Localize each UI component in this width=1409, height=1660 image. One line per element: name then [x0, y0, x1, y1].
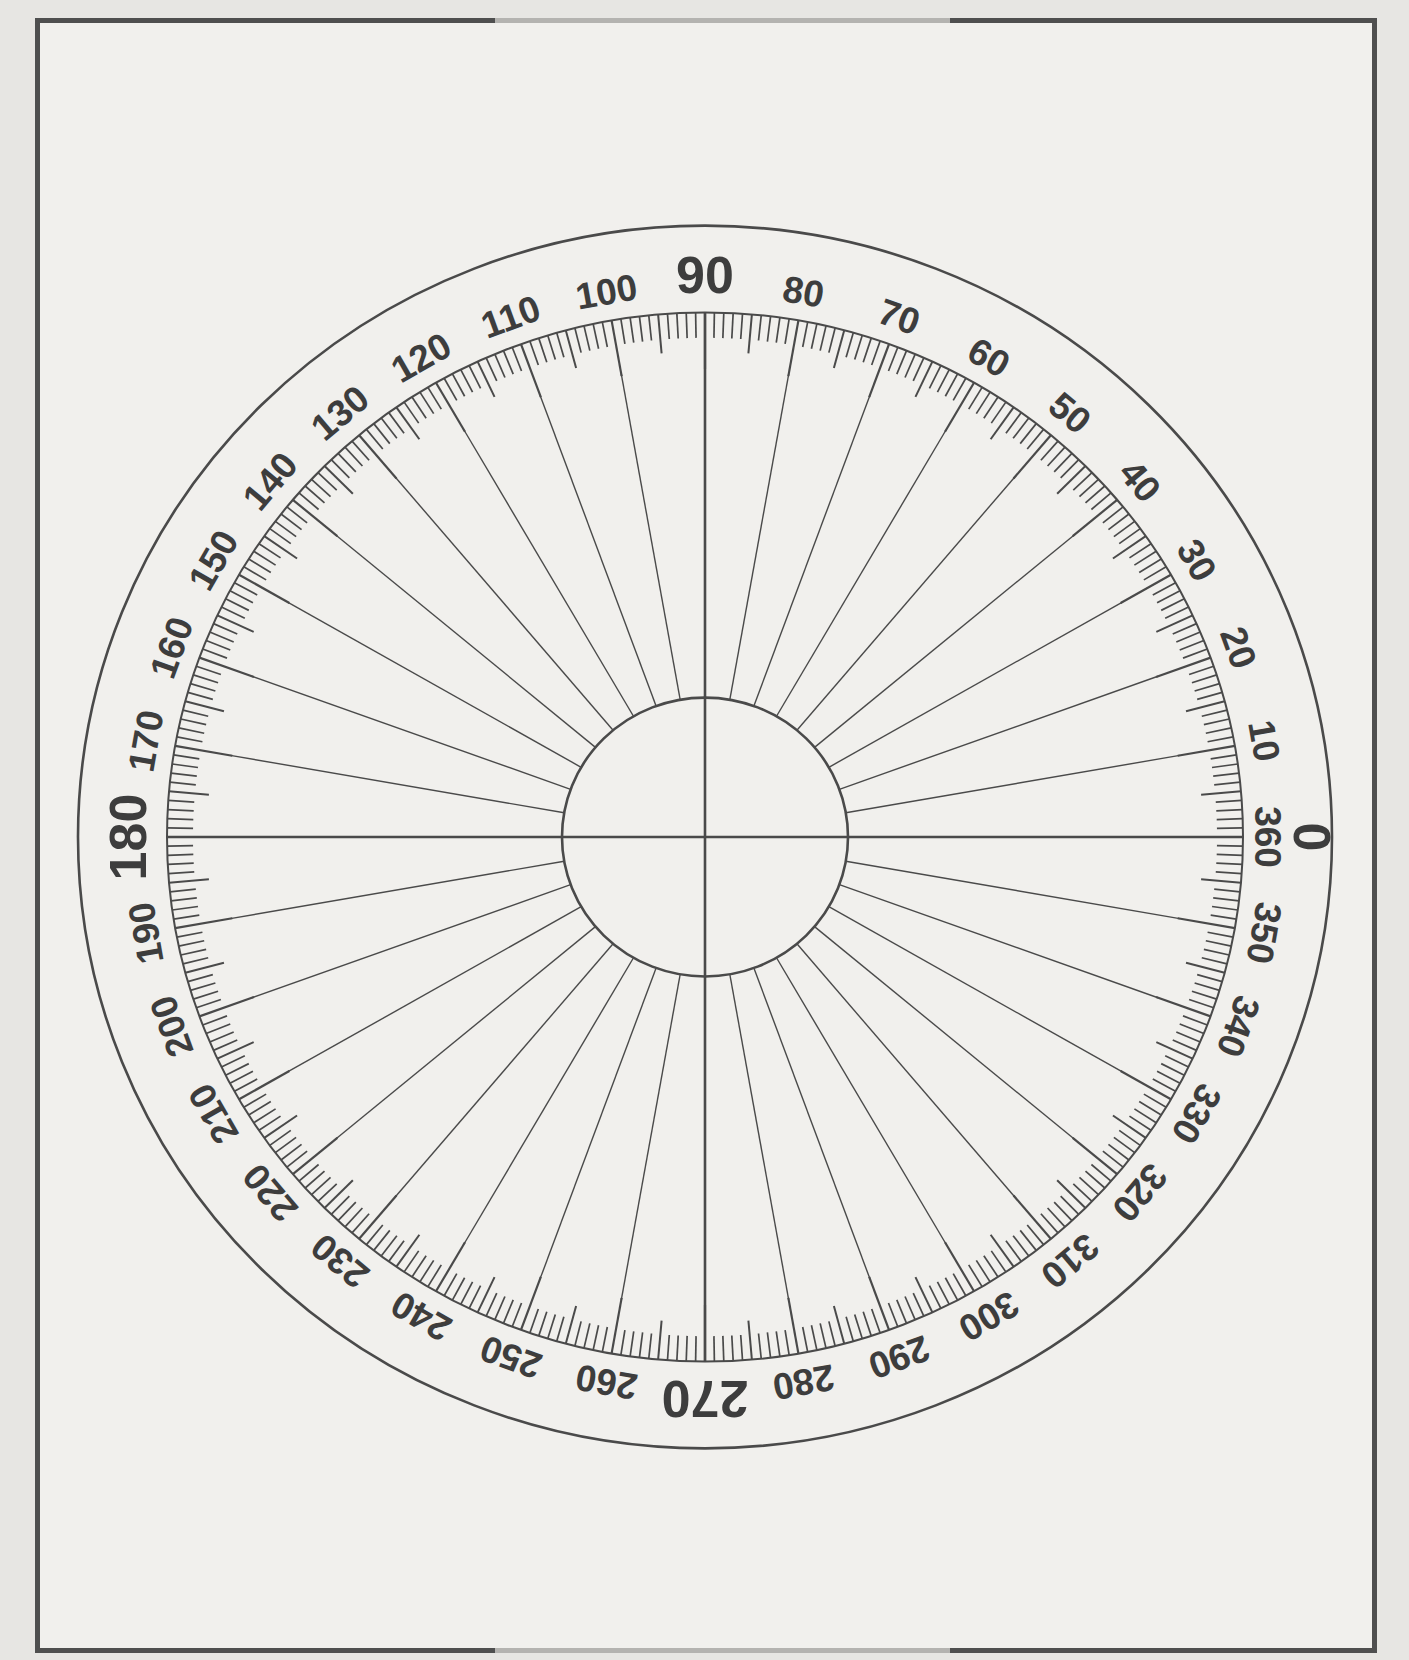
frame-top-border-left [35, 18, 495, 23]
protractor-svg: 0901802701020304050607080100110120130140… [0, 0, 1409, 1660]
frame-right-border [1372, 18, 1377, 1653]
degree-label-80: 80 [780, 268, 828, 316]
frame-bottom-border-right [950, 1648, 1377, 1653]
frame-bottom-border-left [35, 1648, 495, 1653]
frame-top-border-middle [495, 18, 950, 23]
degree-label-10: 10 [1240, 717, 1288, 765]
frame-left-border [35, 18, 40, 1653]
degree-label-90: 90 [676, 246, 734, 304]
degree-label-0: 0 [1283, 823, 1341, 852]
degree-label-180: 180 [99, 794, 157, 881]
degree-label-360: 360 [1247, 806, 1288, 868]
scanned-page: 0901802701020304050607080100110120130140… [0, 0, 1409, 1660]
degree-label-270: 270 [662, 1370, 749, 1428]
frame-top-border-right [950, 18, 1377, 23]
frame-bottom-border-middle [495, 1648, 950, 1653]
